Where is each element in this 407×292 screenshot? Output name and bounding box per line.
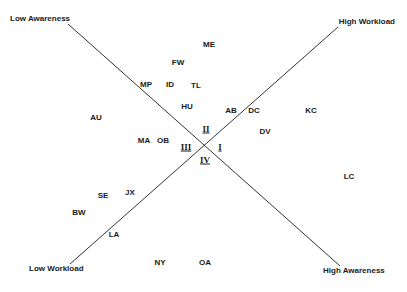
point-label: LC xyxy=(344,173,355,181)
quadrant-diagram: Low Awareness High Workload Low Workload… xyxy=(0,0,407,292)
axis-label-low-workload: Low Workload xyxy=(29,265,84,273)
point-label: BW xyxy=(72,209,85,217)
point-label: FW xyxy=(172,59,184,67)
point-label: SE xyxy=(98,192,109,200)
point-label: MA xyxy=(138,137,150,145)
point-label: HU xyxy=(181,103,193,111)
point-label: JX xyxy=(125,189,135,197)
point-label: TL xyxy=(191,82,201,90)
point-label: ID xyxy=(166,81,174,89)
point-label: OB xyxy=(157,137,169,145)
quadrant-label: I xyxy=(218,143,222,152)
point-label: OA xyxy=(199,259,211,267)
point-label: DC xyxy=(248,107,260,115)
quadrant-label: IV xyxy=(200,156,210,165)
axis-label-low-awareness: Low Awareness xyxy=(10,15,70,23)
point-label: AU xyxy=(90,114,102,122)
point-label: NY xyxy=(154,259,165,267)
quadrant-label: III xyxy=(181,143,192,152)
point-label: AB xyxy=(225,107,237,115)
point-label: KC xyxy=(305,107,317,115)
point-label: ME xyxy=(203,41,215,49)
point-label: DV xyxy=(259,128,270,136)
quadrant-label: II xyxy=(202,125,209,134)
point-label: LA xyxy=(109,231,120,239)
point-label: MP xyxy=(140,81,152,89)
axis-label-high-awareness: High Awareness xyxy=(323,267,385,275)
axis-label-high-workload: High Workload xyxy=(339,18,395,26)
